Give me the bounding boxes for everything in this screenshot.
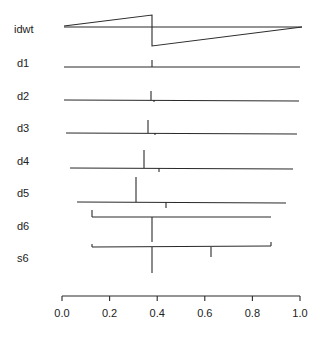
x-tick-label: 0.2	[102, 308, 117, 319]
row-label-d3: d3	[17, 123, 29, 134]
x-tick-label: 1.0	[292, 308, 307, 319]
row-label-s6: s6	[17, 253, 29, 264]
series-d4	[70, 150, 293, 172]
series-d1	[64, 60, 300, 67]
x-axis	[62, 296, 300, 301]
series-idwt	[64, 15, 302, 46]
series-d2	[64, 91, 299, 102]
row-label-d5: d5	[17, 188, 29, 199]
row-label-d1: d1	[17, 58, 29, 69]
series-d3	[66, 120, 297, 135]
row-label-idwt: idwt	[14, 24, 34, 35]
x-tick-label: 0.0	[54, 308, 69, 319]
row-label-d4: d4	[17, 156, 29, 167]
series-d5	[77, 177, 286, 208]
row-label-d6: d6	[17, 221, 29, 232]
row-label-d2: d2	[17, 91, 29, 102]
series-d6	[92, 210, 271, 242]
series-s6	[92, 242, 271, 273]
x-tick-label: 0.6	[197, 308, 212, 319]
x-tick-label: 0.4	[150, 308, 165, 319]
chart-plot	[0, 0, 323, 337]
x-tick-label: 0.8	[245, 308, 260, 319]
